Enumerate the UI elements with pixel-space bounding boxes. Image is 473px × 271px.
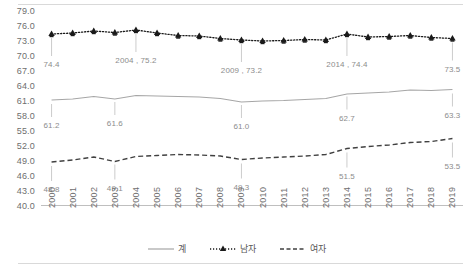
legend-key-swatch [210,244,236,254]
x-axis-tick-label: 2019 [448,187,457,208]
data-label: 74.4 [44,61,60,69]
y-axis-tick-label: 61.0 [17,97,35,106]
x-axis-tick-label: 2003 [110,187,119,208]
y-axis-tick-label: 70.0 [17,52,35,61]
series-lines [41,11,463,206]
data-label: 63.3 [444,112,460,120]
y-axis-tick-label: 52.0 [17,142,35,151]
chart-legend: 계남자여자 [0,244,473,254]
x-axis-tick-label: 2011 [279,187,288,208]
x-axis-line [41,205,463,206]
x-axis-tick-label: 2001 [68,187,77,208]
x-axis-tick-label: 2007 [195,187,204,208]
x-axis-tick-label: 2000 [47,187,56,208]
data-label: 62.7 [339,115,355,123]
x-axis-tick-label: 2002 [89,187,98,208]
y-axis-tick-label: 49.0 [17,157,35,166]
x-axis-tick-label: 2005 [153,187,162,208]
series-marker [48,31,54,38]
data-label: 61.6 [107,120,123,128]
x-axis-tick-label: 2012 [300,187,309,208]
line-chart: 40.043.046.049.052.055.058.061.064.067.0… [0,0,473,271]
series-line [52,30,453,41]
y-axis-tick-label: 58.0 [17,112,35,121]
y-axis-tick-label: 43.0 [17,187,35,196]
y-axis-tick-label: 46.0 [17,172,35,181]
y-axis-tick-label: 67.0 [17,67,35,76]
data-label: 53.5 [444,163,460,171]
y-axis-tick-label: 40.0 [17,202,35,211]
legend-label: 계 [178,244,186,254]
y-axis-tick-label: 76.0 [17,22,35,31]
series-line [52,139,453,163]
data-label: 2014 , 74.4 [326,61,367,69]
x-axis-tick-label: 2008 [216,187,225,208]
legend-item[interactable]: 여자 [280,244,326,254]
y-axis-tick-label: 55.0 [17,127,35,136]
y-axis-tick-labels: 40.043.046.049.052.055.058.061.064.067.0… [0,11,38,206]
x-axis-tick-labels: 2000200120022003200420052006200720082009… [41,208,463,248]
x-axis-tick-label: 2006 [174,187,183,208]
y-axis-tick-label: 64.0 [17,82,35,91]
x-axis-tick-label: 2018 [427,187,436,208]
y-axis-tick-label: 79.0 [17,7,35,16]
x-axis-tick-label: 2015 [364,187,373,208]
x-axis-tick-label: 2017 [406,187,415,208]
frame-bottom-divider [18,263,463,264]
frame-top-divider [18,4,463,5]
data-label: 2004 , 75.2 [115,57,156,65]
x-axis-tick-label: 2013 [321,187,330,208]
x-axis-tick-label: 2014 [342,187,351,208]
y-axis-tick-label: 73.0 [17,37,35,46]
x-axis-tick-label: 2010 [258,187,267,208]
plot-area: 74.42004 , 75.22009 , 73.22014 , 74.473.… [41,11,463,206]
data-label: 73.5 [444,66,460,74]
legend-label: 여자 [310,244,326,254]
legend-item[interactable]: 계 [148,244,186,254]
data-label: 61.0 [233,123,249,131]
data-label: 61.2 [44,122,60,130]
x-axis-tick-label: 2004 [131,187,140,208]
series-marker [344,31,350,38]
legend-key-swatch [280,244,306,254]
x-axis-tick-label: 2009 [237,187,246,208]
data-label: 2009 , 73.2 [221,67,262,75]
x-axis-tick-label: 2016 [385,187,394,208]
data-label: 51.5 [339,173,355,181]
legend-item[interactable]: 남자 [210,244,256,254]
legend-key-swatch [148,244,174,254]
series-line [52,90,453,103]
legend-label: 남자 [240,244,256,254]
